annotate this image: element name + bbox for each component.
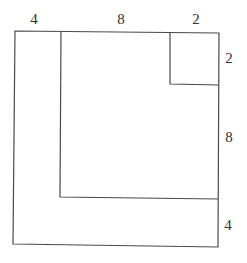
right-label-2: 2 [225,50,233,66]
middle-square [60,32,218,199]
right-label-8: 8 [225,129,233,145]
outer-square [13,31,219,247]
top-label-8: 8 [117,11,125,27]
top-label-4: 4 [30,11,38,27]
right-label-4: 4 [224,217,232,233]
small-square [170,32,219,85]
top-label-2: 2 [192,11,200,27]
nested-squares-diagram: 4 8 2 2 8 4 [0,0,247,263]
